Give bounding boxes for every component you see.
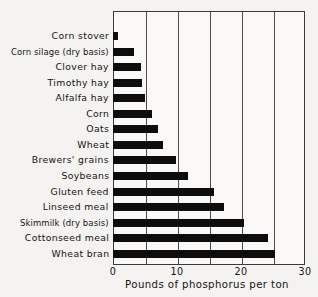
category-label: Linseed meal — [43, 202, 109, 212]
x-tick-label: 30 — [299, 266, 312, 277]
category-label: Corn stover — [51, 31, 109, 41]
bar — [113, 219, 244, 227]
bar — [113, 125, 158, 133]
bar — [113, 188, 214, 196]
x-tick-label: 20 — [235, 266, 248, 277]
category-label: Clover hay — [56, 62, 109, 72]
bar — [113, 79, 142, 87]
x-axis-label: Pounds of phosphorus per ton — [111, 279, 303, 290]
x-axis-ticks: 0102030 — [0, 266, 318, 280]
x-tick-label: 0 — [110, 266, 116, 277]
category-label: Corn — [86, 109, 109, 119]
category-label: Oats — [86, 124, 109, 134]
bar — [113, 32, 118, 40]
category-label: Cottonseed meal — [25, 233, 109, 243]
x-tick-label: 10 — [171, 266, 184, 277]
bar — [113, 94, 145, 102]
bar — [113, 203, 224, 211]
bar — [113, 63, 141, 71]
category-label: Corn silage (dry basis) — [11, 47, 109, 57]
category-label-column: Corn stoverCorn silage (dry basis)Clover… — [0, 0, 112, 265]
bar — [113, 141, 163, 149]
category-label: Timothy hay — [47, 78, 109, 88]
bar — [113, 250, 275, 258]
category-label: Brewers' grains — [32, 155, 109, 165]
category-label: Skimmilk (dry basis) — [20, 218, 109, 228]
category-label: Soybeans — [61, 171, 109, 181]
bar — [113, 172, 188, 180]
category-label: Alfalfa hay — [56, 93, 109, 103]
phosphorus-bar-chart: Corn stoverCorn silage (dry basis)Clover… — [0, 0, 318, 297]
category-label: Wheat — [77, 140, 109, 150]
bar — [113, 48, 134, 56]
bar — [113, 156, 176, 164]
bar — [113, 234, 268, 242]
bar-series — [113, 11, 305, 265]
bar — [113, 110, 152, 118]
category-label: Gluten feed — [51, 187, 109, 197]
category-label: Wheat bran — [51, 249, 109, 259]
